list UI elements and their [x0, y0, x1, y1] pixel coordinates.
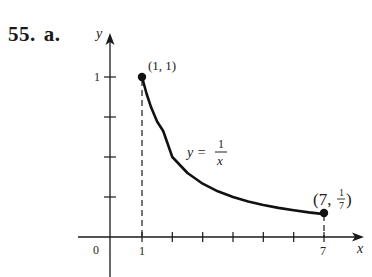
equation-label: y = 1 x: [185, 137, 227, 168]
y-axis: [104, 33, 116, 277]
curve-one-over-x: [142, 77, 324, 214]
equation-numerator: 1: [218, 137, 224, 151]
point-end-open: (7,: [313, 190, 331, 209]
x-axis: [78, 232, 364, 242]
function-graph: y x 0 1 7 1 (1, 1) y = 1 x (7, 1 7 ): [0, 0, 372, 277]
origin-label: 0: [93, 243, 99, 257]
x-tick-label-7: 7: [320, 244, 326, 258]
equation-denominator: x: [216, 153, 223, 168]
point-end: [320, 209, 328, 217]
point-end-label: (7, 1 7 ): [313, 187, 352, 211]
point-end-frac-num: 1: [339, 187, 344, 198]
x-tick-label-1: 1: [139, 244, 145, 258]
point-start-label: (1, 1): [148, 58, 176, 73]
point-end-close: ): [346, 190, 352, 209]
point-end-frac-den: 7: [339, 200, 344, 211]
y-axis-label: y: [94, 26, 103, 41]
x-axis-label: x: [356, 241, 364, 256]
point-start: [138, 73, 146, 81]
y-tick-label-1: 1: [94, 70, 100, 84]
equation-lhs: y =: [185, 145, 206, 160]
